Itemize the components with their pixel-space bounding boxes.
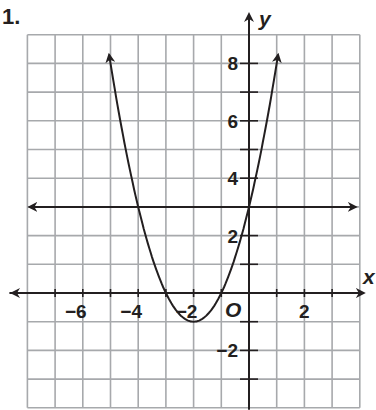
y-tick-label: 4: [227, 168, 238, 189]
y-tick-label: 2: [227, 226, 238, 247]
x-tick-label: −4: [120, 301, 142, 322]
x-tick-label: 2: [299, 301, 310, 322]
x-tick-label: −6: [65, 301, 87, 322]
y-tick-label: 8: [227, 53, 238, 74]
plotted-curves: [29, 55, 355, 322]
tick-labels: −6−4−228642−2yxO: [65, 7, 376, 361]
grid-lines: [27, 35, 359, 408]
coordinate-plane-chart: −6−4−228642−2yxO: [0, 0, 376, 410]
y-tick-label: 6: [227, 111, 238, 132]
y-tick-label: −2: [216, 340, 238, 361]
x-axis-label: x: [362, 265, 376, 288]
y-axis-label: y: [258, 7, 272, 30]
origin-label: O: [225, 298, 241, 321]
